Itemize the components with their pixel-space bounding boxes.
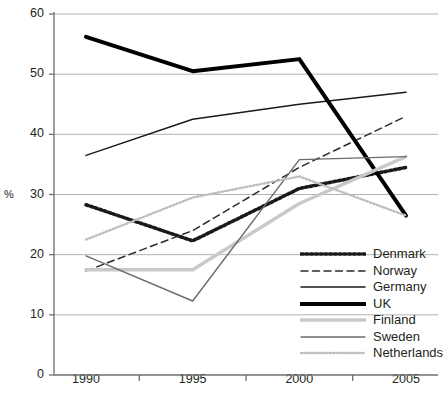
legend-swatch-denmark: [300, 247, 366, 261]
legend-swatch-netherlands: [300, 346, 366, 360]
legend-item-germany[interactable]: Germany: [300, 279, 443, 296]
legend-label: Germany: [373, 280, 426, 294]
legend-label: Sweden: [373, 330, 420, 344]
legend-item-denmark[interactable]: Denmark: [300, 246, 443, 263]
legend-label: UK: [373, 297, 391, 311]
legend-item-sweden[interactable]: Sweden: [300, 329, 443, 346]
chart-legend: DenmarkNorwayGermanyUKFinlandSwedenNethe…: [300, 246, 443, 362]
series-line-uk: [86, 37, 406, 216]
legend-swatch-sweden: [300, 330, 366, 344]
line-chart: % 0102030405060 1990199520002005 Denmark…: [0, 0, 448, 399]
legend-label: Netherlands: [373, 346, 443, 360]
legend-label: Denmark: [373, 247, 426, 261]
legend-item-finland[interactable]: Finland: [300, 312, 443, 329]
legend-label: Norway: [373, 264, 417, 278]
legend-item-uk[interactable]: UK: [300, 296, 443, 313]
legend-item-norway[interactable]: Norway: [300, 263, 443, 280]
legend-swatch-finland: [300, 313, 366, 327]
legend-swatch-norway: [300, 264, 366, 278]
legend-swatch-uk: [300, 297, 366, 311]
legend-swatch-germany: [300, 280, 366, 294]
legend-item-netherlands[interactable]: Netherlands: [300, 345, 443, 362]
legend-label: Finland: [373, 313, 416, 327]
